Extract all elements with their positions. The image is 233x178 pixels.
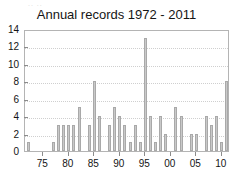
chart-figure: .. .. Annual records 1972 - 2011 0246810… [0,0,233,178]
y-tick-label-14: 14 [8,25,19,35]
bar-1989 [113,107,116,151]
y-tick-mark-2 [24,135,28,136]
bar-1993 [134,125,137,151]
bar-1981 [72,125,75,151]
x-tick-label-10: 10 [215,158,226,170]
bar-1984 [88,125,91,151]
y-tick-mark-12 [24,47,28,48]
x-tick-label-75: 75 [37,158,48,170]
bar-1992 [129,142,132,151]
chart-title: Annual records 1972 - 2011 [0,7,233,23]
x-tick-label-90: 90 [113,158,124,170]
bar-1978 [57,125,60,151]
bar-1980 [67,125,70,151]
bar-1991 [123,125,126,151]
bar-1988 [108,125,111,151]
bar-2002 [180,116,183,151]
y-tick-mark-10 [24,65,28,66]
y-tick-label-6: 6 [13,95,19,105]
bar-2010 [220,142,223,151]
x-tick-mark-00 [170,152,171,156]
bar-1995 [144,38,147,151]
x-tick-mark-95 [144,152,145,156]
bar-2011 [225,81,228,151]
bar-2009 [215,116,218,151]
x-tick-label-00: 00 [164,158,175,170]
y-tick-label-0: 0 [13,147,19,157]
bar-1979 [62,125,65,151]
y-tick-label-8: 8 [13,77,19,87]
bar-2008 [210,125,213,151]
x-tick-mark-05 [195,152,196,156]
clipped-top-artifact: .. .. [0,0,233,7]
y-tick-label-4: 4 [13,112,19,122]
bar-1996 [149,116,152,151]
bar-1977 [52,142,55,151]
x-tick-label-05: 05 [190,158,201,170]
y-tick-label-10: 10 [8,60,19,70]
bar-1985 [93,81,96,151]
y-tick-mark-8 [24,82,28,83]
x-tick-mark-80 [68,152,69,156]
y-axis: 02468101214 [0,30,22,152]
x-tick-mark-75 [42,152,43,156]
bar-1994 [139,142,142,151]
bar-1998 [159,116,162,151]
x-tick-label-95: 95 [139,158,150,170]
bar-1982 [78,107,81,151]
bar-1986 [98,116,101,151]
x-tick-label-80: 80 [62,158,73,170]
bar-2005 [195,134,198,151]
x-tick-mark-90 [119,152,120,156]
bar-1990 [118,116,121,151]
y-tick-mark-4 [24,117,28,118]
y-tick-label-12: 12 [8,42,19,52]
bar-2007 [205,116,208,151]
bar-1972 [27,142,30,151]
y-tick-label-2: 2 [13,130,19,140]
y-tick-mark-6 [24,100,28,101]
bar-1997 [154,142,157,151]
x-tick-mark-85 [93,152,94,156]
bar-1999 [164,134,167,151]
bar-2001 [174,107,177,151]
x-tick-mark-10 [221,152,222,156]
x-tick-label-85: 85 [88,158,99,170]
bar-2004 [190,134,193,151]
plot-area [24,30,229,152]
bar-series [25,31,228,151]
